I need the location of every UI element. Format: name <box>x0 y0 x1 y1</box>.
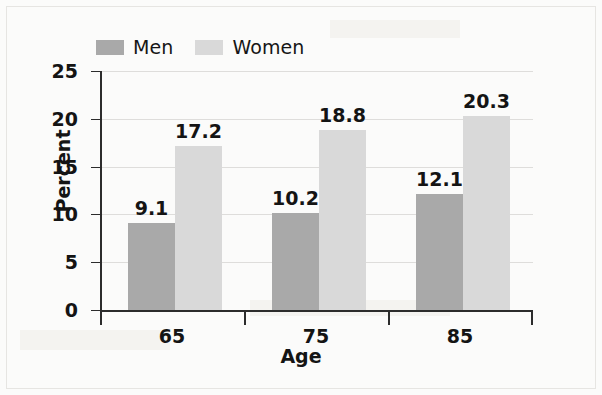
bar-value-men-75: 10.2 <box>272 187 319 209</box>
y-tick-label-15: 15 <box>52 156 78 178</box>
x-tick-label-65: 65 <box>159 325 185 347</box>
bar-value-women-85: 20.3 <box>463 90 510 112</box>
legend-label-men: Men <box>133 38 173 57</box>
y-tick-25: 25 <box>91 71 100 72</box>
y-tick-label-20: 20 <box>52 108 78 130</box>
y-tick-label-25: 25 <box>52 60 78 82</box>
bar-group-65: 9.1 17.2 <box>128 71 222 310</box>
x-separator-3 <box>388 312 390 325</box>
legend-swatch-men <box>96 40 124 55</box>
bar-women-85[interactable]: 20.3 <box>463 116 510 310</box>
bar-value-women-75: 18.8 <box>319 104 366 126</box>
x-tick-label-85: 85 <box>447 325 473 347</box>
y-tick-0: 0 <box>91 310 100 311</box>
x-tick-label-75: 75 <box>303 325 329 347</box>
chart-screenshot: Men Women Percent 25 20 15 10 <box>0 0 602 395</box>
y-tick-label-0: 0 <box>65 299 78 321</box>
bar-men-65[interactable]: 9.1 <box>128 223 175 310</box>
y-tick-10: 10 <box>91 214 100 215</box>
x-separator-2 <box>244 312 246 325</box>
legend-item-men: Men <box>96 38 173 57</box>
bar-men-75[interactable]: 10.2 <box>272 213 319 311</box>
y-tick-5: 5 <box>91 262 100 263</box>
y-tick-label-5: 5 <box>65 251 78 273</box>
scan-artifact <box>330 20 460 38</box>
bar-women-75[interactable]: 18.8 <box>319 130 366 310</box>
bar-men-85[interactable]: 12.1 <box>416 194 463 310</box>
bar-value-women-65: 17.2 <box>175 120 222 142</box>
x-separator-1 <box>100 312 102 325</box>
bar-value-men-65: 9.1 <box>135 197 169 219</box>
bar-group-75: 10.2 18.8 <box>272 71 366 310</box>
bar-group-85: 12.1 20.3 <box>416 71 510 310</box>
y-tick-20: 20 <box>91 119 100 120</box>
y-axis-line <box>100 71 102 311</box>
plot-area: 25 20 15 10 5 0 9.1 17.2 <box>100 71 533 310</box>
x-separator-4 <box>531 312 533 325</box>
bar-value-men-85: 12.1 <box>416 168 463 190</box>
y-tick-label-10: 10 <box>52 203 78 225</box>
legend-swatch-women <box>195 40 223 55</box>
chart-legend: Men Women <box>96 34 304 60</box>
x-axis-line <box>100 310 533 312</box>
x-axis-title: Age <box>0 345 602 367</box>
y-tick-15: 15 <box>91 167 100 168</box>
bar-women-65[interactable]: 17.2 <box>175 146 222 310</box>
legend-label-women: Women <box>232 38 304 57</box>
legend-item-women: Women <box>195 38 304 57</box>
